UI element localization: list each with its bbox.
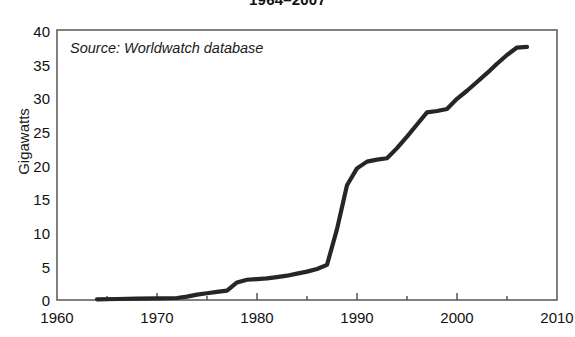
data-line-series	[97, 47, 527, 299]
plot-frame	[57, 30, 557, 300]
plot-area	[0, 0, 575, 337]
chart-figure: 1964–2007 Gigawatts 40 35 30 25 20 15 10…	[0, 0, 575, 337]
